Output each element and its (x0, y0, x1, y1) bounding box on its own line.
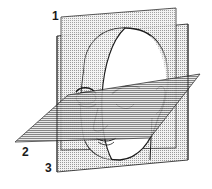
head-planes-diagram (0, 0, 212, 189)
plane-1-label: 1 (52, 10, 59, 22)
plane-2-label: 2 (22, 146, 29, 158)
plane-3-label: 3 (45, 162, 52, 174)
